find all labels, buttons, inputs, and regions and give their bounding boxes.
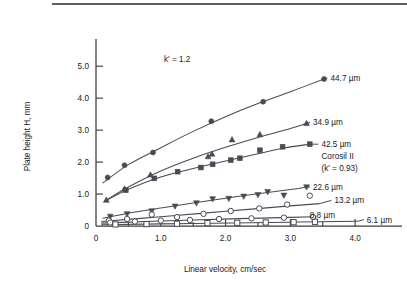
plot-canvas: 01.02.03.04.05.001.02.03.04.0 44.7 µm34.…	[0, 0, 407, 289]
label-leader-line	[358, 220, 363, 222]
data-point-marker	[175, 169, 180, 174]
label-leader-line	[320, 200, 332, 203]
series-label: 34.9 µm	[313, 118, 343, 127]
series-labels-group: 44.7 µm34.9 µm42.5 µmCorosil II(k' = 0.9…	[310, 74, 392, 224]
data-point-marker	[201, 211, 206, 216]
data-point-marker	[144, 221, 149, 226]
tick-marks-group	[96, 66, 355, 226]
series-label: 13.2 µm	[334, 196, 364, 205]
data-point-marker	[261, 99, 266, 104]
data-point-marker	[249, 216, 254, 221]
data-point-marker	[187, 217, 192, 222]
axis-titles-group: Linear velocity, cm/secPlate height H, m…	[23, 102, 266, 274]
data-point-marker	[209, 151, 215, 156]
series-markers-group	[103, 76, 326, 227]
y-tick-label: 3.0	[78, 126, 90, 135]
data-point-marker	[158, 218, 163, 223]
data-point-marker	[151, 150, 156, 155]
data-point-marker	[241, 194, 247, 199]
x-tick-label: 3.0	[285, 234, 297, 243]
data-point-marker	[105, 175, 110, 180]
data-point-marker	[149, 212, 154, 217]
data-point-marker	[122, 163, 127, 168]
y-tick-label: 2.0	[78, 158, 90, 167]
data-point-marker	[108, 220, 113, 225]
data-point-marker	[113, 222, 118, 227]
series-curve	[104, 144, 310, 202]
data-point-marker	[257, 131, 263, 136]
data-point-marker	[210, 162, 215, 167]
data-point-marker	[228, 208, 233, 213]
data-point-marker	[291, 220, 296, 225]
data-point-marker	[226, 196, 232, 201]
data-point-marker	[216, 216, 221, 221]
data-point-marker	[199, 165, 204, 170]
data-point-marker	[263, 220, 268, 225]
y-tick-label: 0	[84, 222, 89, 231]
y-tick-label: 1.0	[78, 190, 90, 199]
data-point-marker	[281, 215, 286, 220]
data-point-marker	[258, 148, 263, 153]
series-curve	[102, 79, 324, 183]
data-point-marker	[205, 221, 210, 226]
data-point-marker	[235, 220, 240, 225]
series-curves-group	[101, 79, 358, 225]
data-point-marker	[280, 144, 285, 149]
x-axis-title: Linear velocity, cm/sec	[184, 265, 266, 274]
data-point-marker	[237, 156, 242, 161]
data-point-marker	[257, 206, 262, 211]
label-leader-line	[324, 78, 328, 79]
data-point-marker	[174, 214, 179, 219]
series-label-line2: Corosil II	[321, 152, 353, 161]
chart-annotation: k' = 1.2	[164, 55, 191, 64]
annotations-group: k' = 1.2	[164, 55, 191, 64]
data-point-marker	[255, 192, 261, 197]
series-label: 6.1 µm	[367, 216, 392, 225]
series-label-line3: (k' = 0.93)	[321, 164, 358, 173]
data-point-marker	[194, 201, 200, 206]
y-axis-title: Plate height H, mm	[23, 102, 32, 172]
series-label: 44.7 µm	[331, 74, 361, 83]
data-point-marker	[123, 188, 128, 193]
x-tick-label: 1.0	[155, 234, 167, 243]
series-curve	[105, 123, 306, 200]
x-tick-label: 2.0	[220, 234, 232, 243]
data-point-marker	[124, 216, 129, 221]
series-label: 22.6 µm	[313, 183, 343, 192]
x-tick-label: 0	[94, 234, 99, 243]
data-point-marker	[284, 202, 289, 207]
data-point-marker	[209, 119, 214, 124]
series-label: 42.5 µm	[321, 140, 351, 149]
data-point-marker	[229, 137, 235, 142]
data-point-marker	[174, 221, 179, 226]
series-label: 8.8 µm	[310, 211, 335, 220]
data-point-marker	[307, 193, 312, 198]
x-tick-label: 4.0	[349, 234, 361, 243]
y-tick-label: 5.0	[78, 62, 90, 71]
data-point-marker	[281, 193, 287, 198]
y-tick-label: 4.0	[78, 94, 90, 103]
data-point-marker	[132, 219, 137, 224]
data-point-marker	[152, 176, 157, 181]
figure-container: 01.02.03.04.05.001.02.03.04.0 44.7 µm34.…	[0, 0, 407, 289]
data-point-marker	[228, 158, 233, 163]
